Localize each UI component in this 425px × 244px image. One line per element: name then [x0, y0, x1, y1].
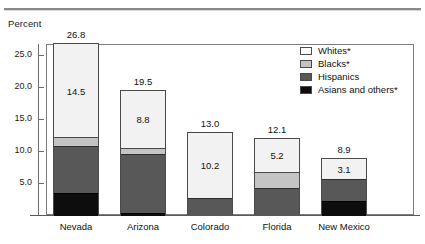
segment-hispanics — [322, 179, 366, 201]
y-tick-label: 25.0 — [2, 50, 32, 59]
y-axis-title: Percent — [8, 18, 41, 29]
bar-total-label: 12.1 — [247, 125, 307, 135]
segment-whites: 14.5 — [54, 44, 98, 137]
legend-label-asians: Asians and others* — [318, 85, 398, 95]
y-tick-label: 15.0 — [2, 114, 32, 123]
bar-nevada: 14.5 — [53, 43, 99, 215]
legend-label-whites: Whites* — [318, 46, 351, 56]
header-rule-shadow — [4, 10, 421, 11]
chart-legend: Whites* Blacks* Hispanics Asians and oth… — [300, 45, 398, 97]
legend-item-hispanics: Hispanics — [300, 71, 398, 83]
bar-total-label: 13.0 — [180, 119, 240, 129]
bar-total-label: 19.5 — [113, 77, 173, 87]
segment-value-label: 3.1 — [322, 163, 366, 174]
segment-value-label: 5.2 — [255, 150, 299, 161]
segment-whites: 10.2 — [188, 133, 232, 198]
legend-item-blacks: Blacks* — [300, 58, 398, 70]
y-tick-mark — [38, 151, 44, 152]
legend-swatch-asians-icon — [300, 86, 312, 94]
segment-asians — [54, 193, 98, 216]
segment-blacks — [54, 137, 98, 146]
legend-label-hispanics: Hispanics — [318, 72, 359, 82]
segment-value-label: 8.8 — [121, 114, 165, 125]
y-tick-mark — [38, 55, 44, 56]
y-tick-label: 10.0 — [2, 146, 32, 155]
y-tick-mark — [38, 87, 44, 88]
bar-colorado: 10.2 — [187, 132, 233, 215]
segment-hispanics — [54, 146, 98, 193]
legend-swatch-hispanics-icon — [300, 73, 312, 81]
segment-value-label: 14.5 — [54, 85, 98, 96]
segment-hispanics — [188, 198, 232, 216]
y-tick-label: 5.0 — [2, 178, 32, 187]
segment-whites: 5.2 — [255, 139, 299, 172]
segment-whites: 8.8 — [121, 91, 165, 147]
y-tick-mark — [38, 183, 44, 184]
segment-hispanics — [121, 154, 165, 213]
segment-blacks — [255, 172, 299, 188]
y-tick-mark — [38, 119, 44, 120]
chart-container: Percent 5.010.015.020.025.0 14.526.88.81… — [0, 0, 425, 244]
bar-total-label: 26.8 — [46, 30, 106, 40]
bar-new-mexico: 3.1 — [321, 158, 367, 215]
legend-label-blacks: Blacks* — [318, 59, 350, 69]
y-axis-line — [38, 44, 39, 216]
bar-arizona: 8.8 — [120, 90, 166, 215]
y-tick-label: 20.0 — [2, 82, 32, 91]
legend-swatch-blacks-icon — [300, 60, 312, 68]
segment-whites: 3.1 — [322, 159, 366, 179]
segment-value-label: 10.2 — [188, 160, 232, 171]
legend-item-whites: Whites* — [300, 45, 398, 57]
legend-item-asians: Asians and others* — [300, 84, 398, 96]
segment-asians — [322, 201, 366, 216]
bar-total-label: 8.9 — [314, 145, 374, 155]
bar-florida: 5.2 — [254, 138, 300, 215]
segment-asians — [121, 213, 165, 216]
legend-swatch-whites-icon — [300, 47, 312, 55]
segment-hispanics — [255, 188, 299, 216]
x-axis-label: New Mexico — [304, 222, 384, 232]
